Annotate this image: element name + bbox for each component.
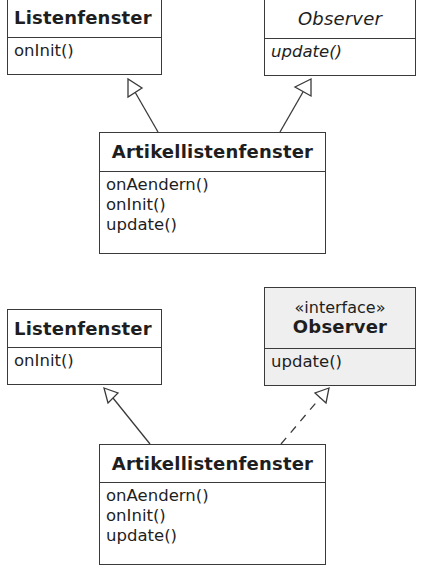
class-name: Observer <box>265 9 415 29</box>
operations-compartment: onInit() <box>8 348 161 371</box>
class-artikellistenfenster-top: Artikellistenfenster onAendern() onInit(… <box>99 132 326 254</box>
class-name: Observer <box>265 317 415 337</box>
generalization-arrow-top-right <box>280 79 311 132</box>
interface-observer-bottom: «interface» Observer update() <box>264 287 416 386</box>
operations-compartment: update() <box>265 349 415 372</box>
operation: update() <box>106 526 325 546</box>
operations-compartment: update() <box>265 39 415 62</box>
operation: onAendern() <box>106 486 325 506</box>
class-listenfenster-top: Listenfenster onInit() <box>7 0 162 75</box>
class-name: Artikellistenfenster <box>100 454 325 474</box>
class-header: Artikellistenfenster <box>100 445 325 483</box>
class-name: Listenfenster <box>14 8 161 28</box>
operations-compartment: onInit() <box>8 38 161 61</box>
operation: onAendern() <box>106 175 325 195</box>
operation: onInit() <box>106 195 325 215</box>
class-header: Artikellistenfenster <box>100 133 325 172</box>
class-name: Listenfenster <box>14 319 161 339</box>
operation: onInit() <box>14 41 161 61</box>
class-header: Observer <box>265 0 415 39</box>
operations-compartment: onAendern() onInit() update() <box>100 172 325 235</box>
realization-arrow-bottom-right <box>281 388 329 444</box>
operation: onInit() <box>14 351 161 371</box>
stereotype-label: «interface» <box>265 299 415 317</box>
class-listenfenster-bottom: Listenfenster onInit() <box>7 309 162 385</box>
class-name: Artikellistenfenster <box>100 142 325 162</box>
class-artikellistenfenster-bottom: Artikellistenfenster onAendern() onInit(… <box>99 444 326 565</box>
operations-compartment: onAendern() onInit() update() <box>100 483 325 546</box>
operation: update() <box>106 215 325 235</box>
class-header: «interface» Observer <box>265 288 415 349</box>
operation: onInit() <box>106 506 325 526</box>
operation: update() <box>271 352 415 372</box>
class-header: Listenfenster <box>8 0 161 38</box>
operation: update() <box>271 42 415 62</box>
generalization-arrow-top-left <box>128 79 158 132</box>
generalization-arrow-bottom-left <box>104 388 150 444</box>
class-header: Listenfenster <box>8 310 161 348</box>
class-observer-abstract-top: Observer update() <box>264 0 416 76</box>
